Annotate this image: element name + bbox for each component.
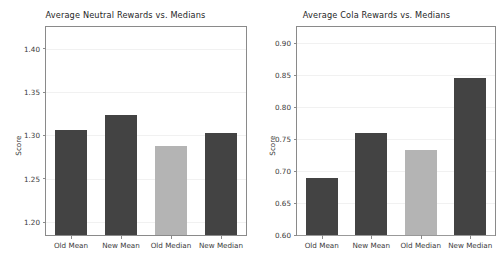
y-tick-label-neutral: 1.40 — [24, 44, 46, 53]
plot-area-cola: 0.600.650.700.750.800.850.90 Old MeanNew… — [296, 26, 496, 236]
x-tick-label-cola-1: New Mean — [352, 241, 390, 250]
bar-cola-3 — [454, 78, 486, 235]
y-tick-label-neutral: 1.20 — [24, 218, 46, 227]
y-tick-label-neutral: 1.30 — [24, 131, 46, 140]
x-tick-label-neutral-1: New Mean — [102, 241, 140, 250]
figure-canvas: Average Neutral Rewards vs. Medians Scor… — [0, 0, 502, 265]
bar-cola-1 — [355, 133, 387, 235]
y-axis-label-neutral: Score — [14, 136, 23, 156]
y-tick-label-cola: 0.70 — [275, 167, 297, 176]
bar-neutral-0 — [55, 130, 87, 235]
x-tick-mark-cola — [421, 235, 422, 239]
bar-cola-0 — [306, 178, 338, 235]
y-tick-label-cola: 0.75 — [275, 135, 297, 144]
bar-neutral-3 — [205, 133, 237, 235]
x-tick-label-neutral-3: New Median — [199, 241, 243, 250]
x-tick-label-cola-2: Old Median — [400, 241, 441, 250]
y-tick-label-cola: 0.80 — [275, 103, 297, 112]
bar-neutral-1 — [105, 115, 137, 235]
x-tick-mark-cola — [322, 235, 323, 239]
x-tick-mark-neutral — [221, 235, 222, 239]
chart-title-neutral: Average Neutral Rewards vs. Medians — [0, 10, 251, 20]
y-tick-label-cola: 0.65 — [275, 199, 297, 208]
gridline-cola — [297, 235, 495, 236]
y-tick-label-cola: 0.90 — [275, 39, 297, 48]
bar-series-neutral — [46, 27, 246, 235]
y-tick-label-neutral: 1.25 — [24, 174, 46, 183]
bar-cola-2 — [405, 150, 437, 235]
chart-title-cola: Average Cola Rewards vs. Medians — [251, 10, 502, 20]
x-tick-label-cola-3: New Median — [448, 241, 492, 250]
chart-panel-neutral: Average Neutral Rewards vs. Medians Scor… — [0, 0, 251, 265]
y-tick-label-cola: 0.85 — [275, 71, 297, 80]
bar-series-cola — [297, 27, 495, 235]
x-tick-label-cola-0: Old Mean — [305, 241, 339, 250]
x-tick-mark-neutral — [171, 235, 172, 239]
x-tick-label-neutral-0: Old Mean — [54, 241, 88, 250]
y-tick-label-cola: 0.60 — [275, 231, 297, 240]
bar-neutral-2 — [155, 146, 187, 235]
x-tick-label-neutral-2: Old Median — [151, 241, 192, 250]
x-tick-mark-cola — [371, 235, 372, 239]
x-tick-mark-neutral — [71, 235, 72, 239]
x-tick-mark-neutral — [121, 235, 122, 239]
plot-area-neutral: 1.201.251.301.351.40 Old MeanNew MeanOld… — [45, 26, 247, 236]
x-tick-mark-cola — [470, 235, 471, 239]
y-tick-label-neutral: 1.35 — [24, 88, 46, 97]
